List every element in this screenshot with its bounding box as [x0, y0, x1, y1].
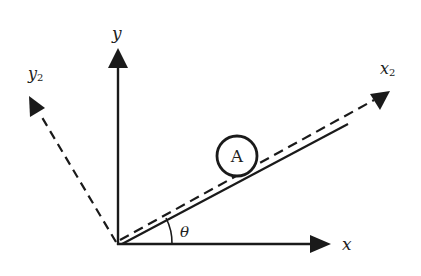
- x-axis-label: x: [342, 234, 352, 254]
- x-axis: [117, 235, 331, 253]
- x2-axis-label: x2: [380, 59, 395, 78]
- x-axis-arrowhead-icon: [310, 235, 331, 253]
- y-axis-arrowhead-icon: [108, 48, 128, 68]
- body-a-label: A: [230, 146, 244, 166]
- y-axis-label: y: [111, 23, 122, 43]
- y2-axis-label: y2: [27, 64, 43, 83]
- y2-axis-arrowhead-icon: [29, 96, 45, 117]
- y-axis: [108, 48, 128, 245]
- y2-axis: [29, 96, 116, 242]
- body-a: A: [217, 136, 257, 176]
- coordinate-diagram: A y x y2 x2 θ: [0, 0, 421, 276]
- angle-arc: [166, 218, 172, 244]
- angle-theta-label: θ: [180, 223, 189, 241]
